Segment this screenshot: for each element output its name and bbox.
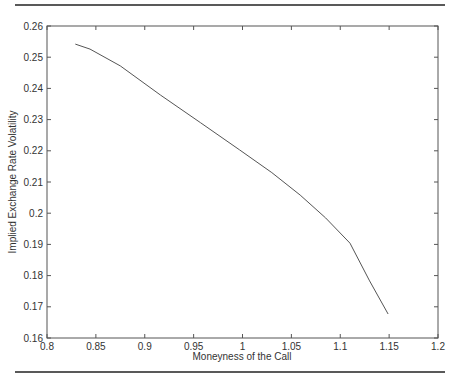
- x-tick-label: 0.9: [138, 341, 152, 352]
- y-tick-label: 0.25: [24, 52, 44, 63]
- y-tick-label: 0.2: [29, 208, 43, 219]
- x-axis: 0.80.850.90.9511.051.11.151.2: [40, 26, 445, 352]
- y-tick-label: 0.26: [24, 21, 44, 32]
- chart: 0.80.850.90.9511.051.11.151.2 0.160.170.…: [0, 0, 457, 374]
- y-axis-label: Implied Exchange Rate Volatility: [7, 111, 18, 254]
- y-tick-label: 0.23: [24, 114, 44, 125]
- x-tick-label: 1.2: [431, 341, 445, 352]
- y-tick-label: 0.21: [24, 177, 44, 188]
- y-tick-label: 0.24: [24, 83, 44, 94]
- x-tick-label: 0.85: [86, 341, 106, 352]
- volatility-curve: [75, 44, 388, 314]
- y-tick-label: 0.17: [24, 301, 44, 312]
- y-tick-label: 0.22: [24, 145, 44, 156]
- y-tick-label: 0.19: [24, 239, 44, 250]
- y-axis: 0.160.170.180.190.20.210.220.230.240.250…: [24, 21, 438, 344]
- x-tick-label: 1.15: [379, 341, 399, 352]
- plot-area: [47, 26, 438, 338]
- y-tick-label: 0.18: [24, 270, 44, 281]
- y-tick-label: 0.16: [24, 333, 44, 344]
- x-tick-label: 1.1: [333, 341, 347, 352]
- x-axis-label: Moneyness of the Call: [193, 351, 292, 362]
